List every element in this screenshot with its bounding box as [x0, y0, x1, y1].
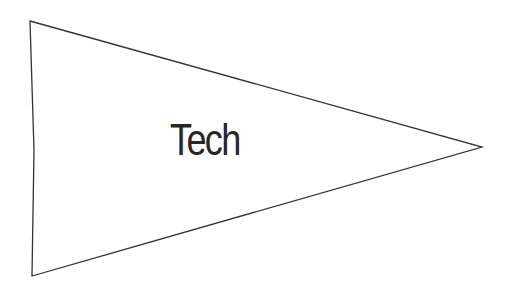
pennant-diagram	[0, 0, 512, 296]
pennant-label: Tech	[170, 118, 240, 162]
pennant-shape	[30, 21, 482, 276]
